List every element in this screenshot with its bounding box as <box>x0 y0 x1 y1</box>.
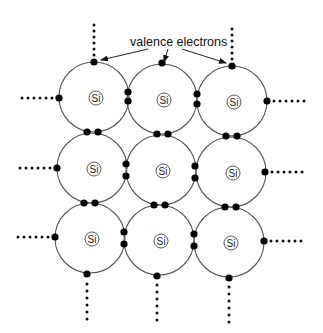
electron-dot <box>261 168 268 175</box>
electron-dot <box>94 128 101 135</box>
bond-dot <box>39 97 42 100</box>
bond-dot <box>291 100 294 103</box>
bond-line-left <box>21 97 54 100</box>
atom-label: Si <box>92 93 101 104</box>
bond-line-right <box>270 240 303 243</box>
bond-dot <box>23 236 26 239</box>
electron-dot <box>161 201 168 208</box>
electron-dot <box>120 240 127 247</box>
bond-dot <box>35 236 38 239</box>
electron-dot <box>83 270 90 277</box>
bond-line-up <box>231 28 234 61</box>
bond-dot <box>277 171 280 174</box>
bond-line-left <box>17 236 50 239</box>
bond-dot <box>45 97 48 100</box>
bond-dot <box>86 311 89 314</box>
bond-dot <box>295 171 298 174</box>
bond-dot <box>276 240 279 243</box>
atom-r2c1: Si <box>57 133 127 203</box>
bond-dot <box>231 34 234 37</box>
atom-label: Si <box>230 97 239 108</box>
bond-dot <box>47 236 50 239</box>
bond-dot <box>228 321 231 324</box>
bond-dot <box>285 100 288 103</box>
electron-dot <box>150 201 157 208</box>
electron-dot <box>193 100 200 107</box>
bond-dot <box>156 319 159 322</box>
electron-dot <box>55 94 62 101</box>
bond-line-down <box>156 284 159 322</box>
bond-dot <box>156 284 159 287</box>
bond-dot <box>294 240 297 243</box>
bond-dot <box>93 30 96 33</box>
electron-dot <box>122 172 129 179</box>
atom-label: Si <box>157 236 166 247</box>
bond-dot <box>49 167 52 170</box>
electron-dot <box>91 199 98 206</box>
bond-dot <box>86 297 89 300</box>
bond-dot <box>37 167 40 170</box>
bond-dot <box>41 236 44 239</box>
electron-dot <box>233 132 240 139</box>
electron-dot <box>191 162 198 169</box>
bond-dot <box>231 28 234 31</box>
electron-dot <box>124 97 131 104</box>
bond-dot <box>31 167 34 170</box>
electron-dot <box>190 242 197 249</box>
electron-dot <box>263 97 270 104</box>
electron-dot <box>83 128 90 135</box>
atom-label: Si <box>88 234 97 245</box>
bond-dot <box>17 236 20 239</box>
arrow-1 <box>101 49 148 60</box>
atom-r3c2: Si <box>124 205 194 275</box>
silicon-lattice-diagram: SiSiSiSiSiSiSiSiSi valence electrons <box>0 0 323 333</box>
electron-dot <box>90 58 97 65</box>
bond-dot <box>228 293 231 296</box>
electron-dot <box>80 199 87 206</box>
bond-dot <box>288 240 291 243</box>
atom-r2c2: Si <box>126 135 196 205</box>
bond-line-down <box>228 286 231 324</box>
bond-dot <box>86 318 89 321</box>
atom-label: Si <box>229 168 238 179</box>
electron-dot <box>153 272 160 279</box>
bond-dot <box>156 312 159 315</box>
bond-dot <box>93 48 96 51</box>
electron-dot <box>221 203 228 210</box>
atom-r3c3: Si <box>194 207 264 277</box>
bond-dot <box>300 240 303 243</box>
bond-line-left <box>19 167 52 170</box>
atom-label: Si <box>90 164 99 175</box>
atom-r2c3: Si <box>196 137 266 207</box>
bond-dot <box>282 240 285 243</box>
electron-dot <box>191 174 198 181</box>
electron-dot <box>164 130 171 137</box>
silicon-atoms: SiSiSiSiSiSiSiSiSi <box>55 62 267 277</box>
bond-dot <box>156 305 159 308</box>
atom-label: Si <box>159 166 168 177</box>
bond-dot <box>228 300 231 303</box>
arrow-3 <box>182 49 226 63</box>
electron-dot <box>228 62 235 69</box>
atom-r1c1: Si <box>59 62 129 132</box>
bond-dot <box>231 46 234 49</box>
bond-dot <box>25 167 28 170</box>
atom-r1c3: Si <box>197 66 267 136</box>
bond-dot <box>279 100 282 103</box>
annotation-label: valence electrons <box>130 35 227 49</box>
bond-dot <box>33 97 36 100</box>
bond-line-right <box>273 100 306 103</box>
arrow-2 <box>164 49 168 62</box>
bond-dot <box>19 167 22 170</box>
electron-dot <box>260 237 267 244</box>
electron-dot <box>120 228 127 235</box>
electron-dot <box>153 130 160 137</box>
bond-dot <box>271 171 274 174</box>
valence-electrons-annotation: valence electrons <box>101 35 227 63</box>
bond-dot <box>231 58 234 61</box>
bond-dot <box>86 290 89 293</box>
bond-dot <box>21 97 24 100</box>
bond-dot <box>228 307 231 310</box>
bond-dot <box>231 52 234 55</box>
atom-label: Si <box>227 238 236 249</box>
